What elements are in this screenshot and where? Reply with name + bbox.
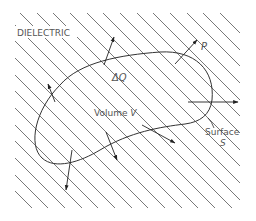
arrow-p <box>175 40 197 64</box>
dielectric-diagram: DIELECTRIC ΔQ Volume V Surface S P <box>0 0 256 221</box>
dielectric-label: DIELECTRIC <box>17 28 70 38</box>
arrow-bottom <box>66 150 72 190</box>
volume-label: Volume V <box>94 108 137 118</box>
surface-label: Surface <box>205 127 240 137</box>
arrow-top <box>104 37 114 65</box>
delta-q-label: ΔQ <box>111 72 127 83</box>
surface-symbol: S <box>220 138 226 148</box>
polarization-label: P <box>201 41 208 52</box>
arrow-top-left <box>48 84 55 102</box>
polarization-arrows <box>48 37 238 190</box>
